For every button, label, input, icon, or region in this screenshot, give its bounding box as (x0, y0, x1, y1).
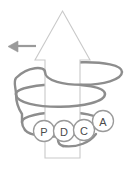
left-pointing-arrow (8, 41, 36, 52)
cycle-step-p-label: P (40, 126, 47, 138)
cycle-step-d[interactable]: D (54, 121, 75, 142)
cycle-step-c[interactable]: C (74, 120, 95, 141)
pdca-spiral-diagram: P D C A (0, 0, 133, 172)
cycle-step-d-label: D (60, 126, 68, 138)
cycle-step-a[interactable]: A (93, 111, 114, 132)
cycle-step-c-label: C (80, 125, 88, 137)
diagram-canvas: P D C A (0, 0, 133, 172)
cycle-step-p[interactable]: P (34, 121, 55, 142)
cycle-step-a-label: A (99, 116, 107, 128)
